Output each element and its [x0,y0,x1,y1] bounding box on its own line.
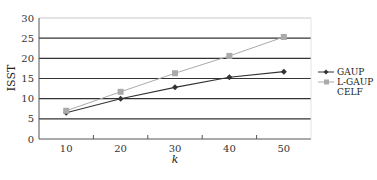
legend-marker [324,70,329,75]
y-axis-label: ISST [5,64,18,91]
legend-label: CELF [337,87,363,97]
x-tick-label: 10 [60,143,73,154]
y-tick-label: 20 [21,53,34,64]
y-tick-label: 0 [28,134,34,145]
legend-label: GAUP [337,67,364,77]
x-tick-label: 20 [114,143,127,154]
series-line-gaup [66,72,284,113]
y-tick-label: 30 [21,13,34,24]
y-tick-label: 10 [21,93,34,104]
chart: 051015202530 1020304050 ISST k GAUPL-GAU… [0,0,377,180]
data-point [118,89,124,95]
x-tick-label: 50 [277,143,290,154]
data-point [226,53,232,59]
y-tick-label: 5 [28,113,34,124]
legend-label: L-GAUP [337,77,373,87]
data-point [63,108,69,114]
x-tick-label: 40 [223,143,236,154]
y-tick-labels: 051015202530 [21,13,34,145]
data-point [226,74,232,80]
legend: GAUPL-GAUPCELF [318,67,373,97]
data-point [281,34,287,40]
gridlines [39,18,311,119]
legend-marker [324,80,329,85]
data-point [172,84,178,90]
data-point [118,96,124,102]
y-tick-label: 25 [21,33,34,44]
y-tick-label: 15 [21,73,34,84]
data-point [281,69,287,75]
x-axis-label: k [172,153,179,166]
data-series [63,34,287,116]
data-point [172,70,178,76]
